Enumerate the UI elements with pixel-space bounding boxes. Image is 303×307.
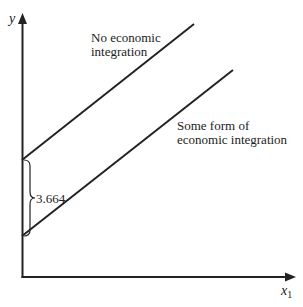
gap-brace xyxy=(24,160,35,236)
x-axis-label: x1 xyxy=(280,283,292,300)
chart: y x1 3.664 No economic integration Some … xyxy=(0,0,303,307)
upper-line-label-2: integration xyxy=(91,44,148,59)
y-axis-arrow-icon xyxy=(18,13,27,24)
gap-label: 3.664 xyxy=(36,191,66,206)
lower-line-label-2: economic integration xyxy=(177,132,288,147)
x-axis-arrow-icon xyxy=(285,273,296,282)
upper-line-label-1: No economic xyxy=(91,30,161,45)
lower-line-label-1: Some form of xyxy=(177,118,250,133)
line-some-integration xyxy=(22,70,233,236)
y-axis-label: y xyxy=(7,11,16,26)
